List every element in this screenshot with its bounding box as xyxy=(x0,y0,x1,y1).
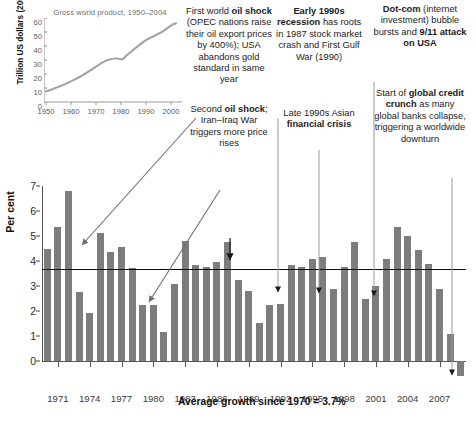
bar-2005 xyxy=(415,250,422,361)
main-x-tickmark xyxy=(408,362,409,367)
main-y-tickmark xyxy=(36,336,40,337)
inset-x-tick: 2000 xyxy=(163,107,180,116)
inset-x-tick: 1970 xyxy=(88,107,105,116)
bar-2003 xyxy=(394,227,401,361)
bar-1983 xyxy=(182,241,189,361)
annotation-early-1990s-recession: Early 1990s recession has roots in 1987 … xyxy=(276,6,362,63)
main-x-tick: 1977 xyxy=(111,393,132,404)
inset-y-tick: 20 xyxy=(34,74,42,83)
bar-1972 xyxy=(65,191,72,362)
bar-1970 xyxy=(44,249,51,361)
bar-1971 xyxy=(54,227,61,361)
inset-y-tick: 40 xyxy=(34,46,42,55)
bar-2009 xyxy=(457,361,464,376)
bar-1999 xyxy=(351,242,358,362)
bar-1982 xyxy=(171,284,178,361)
main-x-tick: 2004 xyxy=(397,393,418,404)
inset-y-tick: 60 xyxy=(34,18,42,27)
main-x-tick: 2001 xyxy=(365,393,386,404)
bar-2004 xyxy=(404,236,411,361)
main-x-tickmark xyxy=(90,362,91,367)
bar-1992 xyxy=(277,304,284,361)
bar-1997 xyxy=(330,289,337,362)
annotation-first-oil-shock: First world oil shock (OPEC nations rais… xyxy=(186,6,272,86)
bar-1984 xyxy=(192,265,199,361)
inset-chart-title: Gross world product, 1950–2004 xyxy=(36,8,184,17)
main-x-tickmark xyxy=(376,362,377,367)
main-y-tickmark xyxy=(36,186,40,187)
average-growth-label: Average growth since 1970 = 3.7% xyxy=(178,396,346,407)
main-x-tickmark xyxy=(58,362,59,367)
bar-1979 xyxy=(139,305,146,361)
main-y-tickmark xyxy=(36,311,40,312)
bar-1975 xyxy=(97,233,104,361)
annotation-dotcom-bubble: Dot-com (internet investment) bubble bur… xyxy=(370,4,470,50)
main-x-tick: 1980 xyxy=(143,393,164,404)
inset-y-tick: 10 xyxy=(34,88,42,97)
bar-1993 xyxy=(288,265,295,361)
inset-line-svg xyxy=(44,18,182,108)
main-y-tickmark xyxy=(36,236,40,237)
main-bar-chart: Per cent 01234567 1971197419771980198319… xyxy=(0,180,476,430)
bar-2001 xyxy=(372,286,379,361)
bar-1987 xyxy=(224,242,231,361)
main-x-tickmark xyxy=(312,362,313,367)
annotation-global-credit-crunch: Start of global credit crunch as many gl… xyxy=(372,88,468,145)
main-y-ticks: 01234567 xyxy=(14,186,40,386)
inset-y-ticks: 0 10 20 30 40 50 60 xyxy=(18,18,42,106)
bar-1991 xyxy=(266,305,273,361)
inset-x-tick: 1990 xyxy=(138,107,155,116)
bar-1989 xyxy=(245,291,252,361)
bar-1990 xyxy=(256,323,263,361)
bar-1994 xyxy=(298,267,305,361)
bar-2007 xyxy=(436,289,443,362)
inset-y-tick: 30 xyxy=(34,60,42,69)
main-x-tickmark xyxy=(344,362,345,367)
inset-plot-area xyxy=(44,18,182,106)
main-x-tickmark xyxy=(281,362,282,367)
zero-baseline xyxy=(42,361,466,362)
bar-1977 xyxy=(118,247,125,361)
main-x-tick: 2007 xyxy=(429,393,450,404)
bar-1988 xyxy=(235,280,242,362)
main-y-tickmark xyxy=(36,211,40,212)
bar-1985 xyxy=(203,267,210,361)
average-growth-line xyxy=(42,269,466,270)
inset-x-tick: 1950 xyxy=(38,107,55,116)
bar-1981 xyxy=(160,332,167,362)
annotation-second-oil-shock: Second oil shock; Iran–Iraq War triggers… xyxy=(186,104,272,150)
bar-1996 xyxy=(319,257,326,361)
bar-1995 xyxy=(309,259,316,362)
main-plot-area xyxy=(42,186,466,386)
main-x-tick: 1974 xyxy=(79,393,100,404)
annotation-asian-financial-crisis: Late 1990s Asian financial crisis xyxy=(276,108,362,131)
main-y-tickmark xyxy=(36,286,40,287)
main-x-tickmark xyxy=(122,362,123,367)
bar-1980 xyxy=(150,305,157,361)
main-y-tickmark xyxy=(36,361,40,362)
bar-2008 xyxy=(447,334,454,362)
main-x-tickmark xyxy=(153,362,154,367)
infographic-root: Gross world product, 1950–2004 Trillion … xyxy=(0,0,476,430)
bar-2000 xyxy=(362,299,369,362)
main-x-tickmark xyxy=(440,362,441,367)
main-x-tickmark xyxy=(217,362,218,367)
main-x-tick: 1971 xyxy=(47,393,68,404)
inset-y-tick: 50 xyxy=(34,32,42,41)
bar-1974 xyxy=(86,313,93,361)
bar-1978 xyxy=(129,268,136,361)
bar-1986 xyxy=(213,262,220,361)
bar-2006 xyxy=(425,264,432,362)
inset-x-tick: 1960 xyxy=(63,107,80,116)
main-x-tickmark xyxy=(185,362,186,367)
bar-2002 xyxy=(383,259,390,362)
bar-1973 xyxy=(76,292,83,361)
inset-x-tick: 1980 xyxy=(113,107,130,116)
main-x-tickmark xyxy=(249,362,250,367)
main-y-tickmark xyxy=(36,261,40,262)
inset-line-chart: Gross world product, 1950–2004 Trillion … xyxy=(6,8,184,126)
inset-x-ticks: 1950 1960 1970 1980 1990 2000 xyxy=(44,107,182,119)
bar-1998 xyxy=(341,267,348,361)
